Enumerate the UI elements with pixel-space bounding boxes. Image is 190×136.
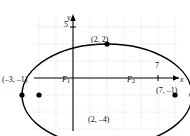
label-left-vertex: (–3, –1) [2,76,27,84]
x-tick-label-7: 7 [155,62,159,70]
focus-right-subscript: 2 [132,78,135,84]
axis-ticks [70,27,158,81]
point-focus-left [36,92,41,97]
point-left-vertex [19,92,24,97]
y-axis [70,14,75,131]
focus-left-subscript: 1 [67,78,70,84]
label-bottom-vertex: (2, –4) [88,116,109,124]
point-right-vertex [189,92,190,97]
x-axis-label: x [180,76,184,84]
label-top-vertex: (2, 2) [91,36,108,44]
ellipse-figure: y x 5 7 (2, 2) (2, –4) (–3, –1) (7, –1) … [0,0,190,136]
y-tick-label-5: 5 [64,21,68,29]
label-focus-right: F2 [127,76,135,84]
label-right-vertex: (7, –1) [156,87,177,95]
label-focus-left: F1 [62,76,70,84]
grid-lines [34,16,180,129]
